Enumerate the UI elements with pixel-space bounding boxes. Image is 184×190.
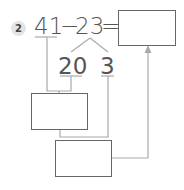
ones-part: 3 [100,53,115,79]
intermediate-box-2[interactable] [55,140,112,177]
problem-number-badge: 2 [11,21,26,36]
tens-part: 20 [58,53,87,79]
subtrahend: 23 [75,13,104,39]
intermediate-box-1[interactable] [31,93,88,130]
minuend: 41 [34,13,63,39]
answer-box[interactable] [118,10,176,46]
